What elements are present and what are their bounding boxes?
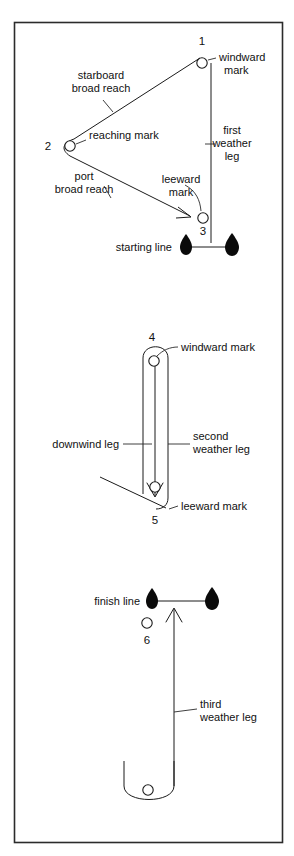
lower-turning-mark bbox=[143, 785, 153, 795]
mark-5-number: 5 bbox=[152, 514, 158, 526]
starting-line-boat-right bbox=[225, 233, 239, 256]
course-illustration: 1 windward mark 2 reaching mark 3 leewar… bbox=[0, 0, 294, 856]
mark-2-leader-line bbox=[76, 140, 86, 144]
mark-5-label: leeward mark bbox=[181, 500, 248, 512]
starboard-reach-label-line1: starboard bbox=[78, 69, 124, 81]
finish-line-boat-left bbox=[146, 588, 158, 609]
mark-1-leader-line bbox=[208, 58, 216, 60]
finish-line-boat-right bbox=[205, 587, 219, 610]
third-weather-leg-label-line2: weather leg bbox=[199, 711, 257, 723]
mark-4-label: windward mark bbox=[180, 341, 255, 353]
port-reach-label-line1: port bbox=[75, 170, 94, 182]
downwind-leg-label: downwind leg bbox=[52, 438, 119, 450]
finish-line-label: finish line bbox=[94, 595, 140, 607]
mark-2-reaching bbox=[65, 141, 75, 151]
mark-1-number: 1 bbox=[199, 35, 205, 47]
mark-3-label-line2: mark bbox=[169, 186, 194, 198]
mark-3-leeward bbox=[198, 213, 208, 223]
mark-1-windward bbox=[197, 58, 207, 68]
starboard-reach-leader-line bbox=[103, 100, 113, 112]
mark-2-number: 2 bbox=[45, 140, 51, 152]
mark-6-finish bbox=[142, 618, 152, 628]
mark-1-label-line2: mark bbox=[224, 64, 249, 76]
second-weather-leg-label-line1: second bbox=[193, 430, 228, 442]
starting-line-label: starting line bbox=[116, 241, 172, 253]
first-weather-leg-label-line3: leg bbox=[225, 150, 240, 162]
second-weather-leg-label-line2: weather leg bbox=[192, 443, 250, 455]
third-weather-leg-leader-line bbox=[174, 709, 197, 712]
mark-1-label-line1: windward bbox=[218, 51, 265, 63]
mark-2-label: reaching mark bbox=[89, 129, 159, 141]
first-weather-leg-label-line2: weather bbox=[211, 137, 251, 149]
starting-line-boat-left bbox=[180, 234, 192, 255]
mark-5-leader-line bbox=[169, 506, 178, 509]
starboard-reach-label-line2: broad reach bbox=[72, 82, 131, 94]
mark-4-number: 4 bbox=[149, 331, 156, 343]
mark-3-label-line1: leeward bbox=[162, 173, 201, 185]
sailing-course-diagram: 1 windward mark 2 reaching mark 3 leewar… bbox=[0, 0, 294, 856]
third-weather-leg-label-line1: third bbox=[200, 698, 221, 710]
first-weather-leg-label-line1: first bbox=[223, 124, 241, 136]
mark-6-number: 6 bbox=[144, 634, 150, 646]
mark-3-number: 3 bbox=[200, 225, 206, 237]
mark-5-leeward bbox=[150, 482, 160, 492]
port-reach-label-line2: broad reach bbox=[55, 183, 114, 195]
mark-4-windward bbox=[149, 356, 159, 366]
